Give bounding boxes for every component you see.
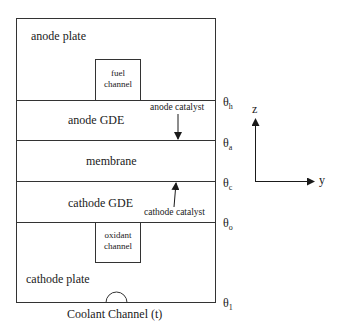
fuel-channel-line1: fuel <box>96 68 140 79</box>
anode-plate-label: anode plate <box>31 29 86 44</box>
cathode-gde-label: cathode GDE <box>68 196 133 211</box>
oxidant-channel-line1: oxidant <box>96 230 140 241</box>
theta-c-label: θc <box>223 176 232 192</box>
anode-catalyst-label: anode catalyst <box>150 102 204 112</box>
cathode-catalyst-arrow <box>174 183 176 207</box>
anode-gde-label: anode GDE <box>68 113 124 128</box>
coolant-channel-label: Coolant Channel (t) <box>67 307 162 322</box>
cathode-catalyst-label: cathode catalyst <box>144 207 205 217</box>
z-axis-label: z <box>252 102 257 117</box>
coolant-channel-shape <box>106 292 127 303</box>
y-axis-label: y <box>319 173 325 188</box>
fuel-channel-line2: channel <box>96 79 140 90</box>
cathode-plate-label: cathode plate <box>26 272 90 287</box>
theta-a-label: θa <box>223 136 232 152</box>
theta-h-label: θh <box>223 95 233 111</box>
theta-1-label: θ1 <box>223 296 233 312</box>
fuel-channel-label: fuel channel <box>96 68 140 90</box>
membrane-label: membrane <box>86 154 137 169</box>
oxidant-channel-label: oxidant channel <box>96 230 140 252</box>
oxidant-channel-line2: channel <box>96 241 140 252</box>
theta-o-label: θo <box>223 216 233 232</box>
